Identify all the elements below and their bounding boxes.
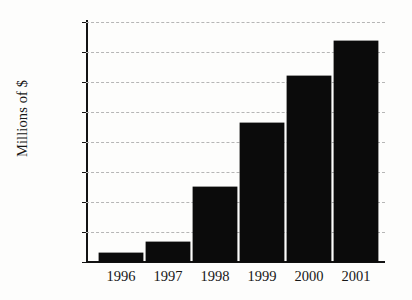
gridline (86, 22, 385, 23)
y-tick-mark (82, 232, 86, 233)
bar (99, 253, 143, 262)
y-tick-mark (82, 142, 86, 143)
x-tick-label: 1996 (107, 268, 136, 285)
x-tick-label: 1999 (248, 268, 277, 285)
y-tick-mark (82, 202, 86, 203)
bar (240, 123, 284, 263)
bar (193, 187, 237, 262)
x-tick-label: 1997 (154, 268, 183, 285)
y-tick-mark (82, 262, 86, 263)
x-tick-label: 2001 (342, 268, 371, 285)
y-tick-mark (82, 172, 86, 173)
bar (287, 76, 331, 262)
y-tick-mark (82, 22, 86, 23)
y-tick-mark (82, 82, 86, 83)
plot-area (86, 22, 385, 262)
bar-chart-figure: Millions of $ 02004006008001000120014001… (0, 0, 412, 300)
y-tick-mark (82, 52, 86, 53)
bar (334, 41, 378, 262)
x-tick-label: 1998 (201, 268, 230, 285)
x-tick-label: 2000 (295, 268, 324, 285)
y-axis-title: Millions of $ (14, 59, 31, 179)
y-tick-mark (82, 112, 86, 113)
bar (146, 242, 190, 262)
